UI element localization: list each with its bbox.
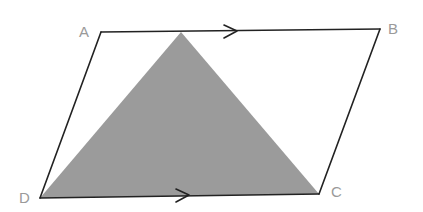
parallelogram-diagram: A B C D bbox=[0, 0, 423, 212]
vertex-label-d: D bbox=[19, 189, 30, 206]
vertex-label-c: C bbox=[331, 183, 342, 200]
edge-ab bbox=[101, 29, 380, 32]
vertex-label-b: B bbox=[388, 20, 398, 37]
vertex-label-a: A bbox=[79, 23, 89, 40]
shaded-triangle bbox=[40, 32, 319, 198]
parallel-arrow-icon-ab bbox=[224, 25, 237, 38]
edge-bc bbox=[319, 29, 380, 194]
